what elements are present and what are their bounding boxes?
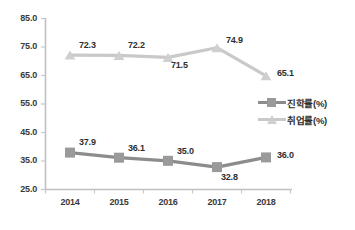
chart-legend: 진학률(%) 취업률(%) [258, 94, 355, 128]
y-tick-label-85: 85.0 [3, 13, 37, 23]
y-axis-ticks [41, 19, 45, 190]
legend-item-jinhak[interactable]: 진학률(%) [258, 94, 355, 111]
y-tick-label-75: 75.0 [3, 41, 37, 51]
x-tick-label-2016: 2016 [148, 197, 188, 207]
data-label-chwieop-2015: 72.2 [128, 40, 145, 50]
square-marker-icon [267, 98, 276, 107]
data-label-jinhak-2018: 36.0 [277, 150, 294, 160]
data-label-jinhak-2016: 35.0 [177, 146, 194, 156]
series-jinhak-markers [65, 148, 271, 173]
data-label-chwieop-2017: 74.9 [226, 35, 243, 45]
line-chart: 85.0 75.0 65.0 55.0 45.0 35.0 25.0 2014 … [0, 0, 355, 230]
data-label-jinhak-2014: 37.9 [79, 137, 96, 147]
x-tick-label-2015: 2015 [99, 197, 139, 207]
data-label-jinhak-2017: 32.8 [221, 172, 238, 182]
legend-label-jinhak: 진학률(%) [287, 96, 327, 110]
y-tick-label-35: 35.0 [3, 155, 37, 165]
legend-label-chwieop: 취업률(%) [287, 113, 327, 127]
triangle-marker-icon [267, 115, 277, 124]
data-label-chwieop-2018: 65.1 [277, 68, 294, 78]
legend-key-jinhak [258, 97, 286, 108]
data-label-chwieop-2016: 71.5 [171, 60, 188, 70]
x-tick-label-2018: 2018 [246, 197, 286, 207]
x-tick-label-2017: 2017 [197, 197, 237, 207]
y-tick-label-25: 25.0 [3, 184, 37, 194]
data-label-chwieop-2014: 72.3 [79, 40, 96, 50]
x-tick-label-2014: 2014 [50, 197, 90, 207]
y-tick-label-65: 65.0 [3, 70, 37, 80]
y-tick-label-45: 45.0 [3, 127, 37, 137]
legend-item-chwieop[interactable]: 취업률(%) [258, 111, 355, 128]
legend-key-chwieop [258, 114, 286, 125]
y-tick-label-55: 55.0 [3, 98, 37, 108]
data-label-jinhak-2015: 36.1 [128, 143, 145, 153]
